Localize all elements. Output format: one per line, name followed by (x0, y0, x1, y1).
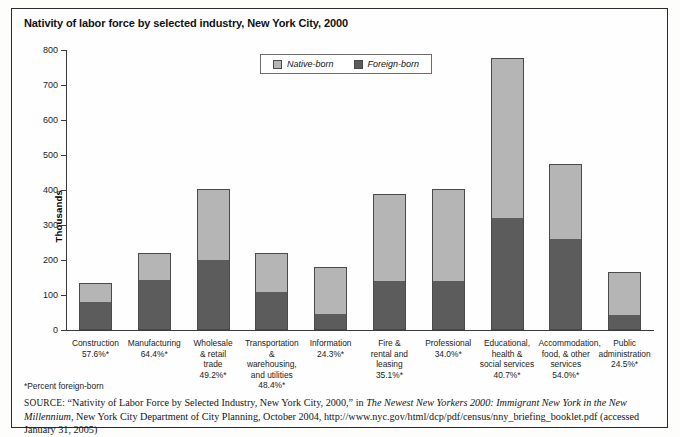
category-percent-foreign-born: 57.6%* (68, 349, 123, 360)
category-name-line: Wholesale (186, 338, 241, 349)
category-percent-foreign-born: 35.1%* (362, 370, 417, 381)
stacked-bar (314, 267, 347, 330)
y-tick-label: 800 (43, 45, 58, 55)
bar-segment-native-born (256, 254, 287, 294)
figure-page: Nativity of labor force by selected indu… (0, 0, 680, 437)
bar-segment-native-born (80, 284, 111, 304)
bar-group (432, 50, 465, 330)
bar-group (549, 50, 582, 330)
category-percent-foreign-born: 40.7%* (480, 370, 535, 381)
category-percent-foreign-born: 24.3%* (303, 349, 358, 360)
category-name-line: food, & other (538, 349, 593, 360)
y-tick-label: 300 (43, 220, 58, 230)
x-axis-category-label: Publicadministration24.5%* (597, 334, 652, 370)
bar-segment-native-born (139, 254, 170, 281)
stacked-bar (197, 189, 230, 330)
y-tick-mark (61, 190, 66, 191)
footnote-percent-foreign-born: *Percent foreign-born (24, 381, 104, 391)
stacked-bar (491, 58, 524, 330)
bar-segment-native-born (315, 268, 346, 316)
source-note: SOURCE: “Nativity of Labor Force by Sele… (24, 396, 652, 436)
category-name-line: & warehousing, (244, 349, 299, 370)
y-axis-line (66, 50, 67, 330)
stacked-bar (79, 283, 112, 330)
bar-group (255, 50, 288, 330)
y-tick-mark (61, 330, 66, 331)
y-tick-mark (61, 295, 66, 296)
category-percent-foreign-born: 48.4%* (244, 380, 299, 391)
bar-segment-foreign-born (256, 292, 287, 329)
source-text-part1: “Nativity of Labor Force by Selected Ind… (65, 397, 366, 408)
y-axis-title: Thousands (53, 190, 64, 242)
source-kicker: SOURCE: (24, 398, 65, 408)
y-tick-mark (61, 50, 66, 51)
bar-segment-foreign-born (315, 314, 346, 329)
bar-segment-native-born (550, 165, 581, 241)
stacked-bar (255, 253, 288, 330)
bar-segment-foreign-born (80, 302, 111, 329)
category-name-line: Educational, (480, 338, 535, 349)
category-name-line: Professional (421, 338, 476, 349)
category-percent-foreign-born: 49.2%* (186, 370, 241, 381)
category-name-line: Manufacturing (127, 338, 182, 349)
y-tick-mark (61, 155, 66, 156)
y-tick-label: 0 (53, 325, 58, 335)
bar-group (314, 50, 347, 330)
category-name-line: Fire & (362, 338, 417, 349)
stacked-bar (608, 272, 641, 330)
bar-segment-foreign-born (492, 218, 523, 329)
x-axis-category-label: Information24.3%* (303, 334, 358, 359)
category-percent-foreign-born: 34.0%* (421, 349, 476, 360)
category-percent-foreign-born: 54.0%* (538, 370, 593, 381)
x-axis-category-label: Transportation& warehousing,and utilitie… (244, 334, 299, 391)
bar-segment-foreign-born (139, 280, 170, 329)
bar-group (491, 50, 524, 330)
y-tick-label: 700 (43, 80, 58, 90)
bar-segment-native-born (433, 190, 464, 283)
x-axis-category-label: Educational,health &social services40.7%… (480, 334, 535, 380)
x-axis-category-label: Construction57.6%* (68, 334, 123, 359)
category-percent-foreign-born: 64.4%* (127, 349, 182, 360)
page-title: Nativity of labor force by selected indu… (24, 17, 348, 29)
bar-segment-foreign-born (198, 260, 229, 329)
stacked-bar (549, 164, 582, 330)
y-tick-mark (61, 120, 66, 121)
stacked-bar (432, 189, 465, 330)
bar-group (197, 50, 230, 330)
bar-segment-native-born (198, 190, 229, 262)
category-name-line: health & (480, 349, 535, 360)
category-name-line: trade (186, 359, 241, 370)
category-name-line: Transportation (244, 338, 299, 349)
x-axis-line (66, 330, 654, 331)
y-tick-label: 400 (43, 185, 58, 195)
category-name-line: Information (303, 338, 358, 349)
source-text-part2: New York City Department of City Plannin… (24, 411, 639, 435)
stacked-bar (373, 194, 406, 330)
category-name-line: Public (597, 338, 652, 349)
bar-group (138, 50, 171, 330)
y-tick-label: 600 (43, 115, 58, 125)
x-axis-category-label: Accommodation,food, & otherservices54.0%… (538, 334, 593, 380)
y-tick-label: 500 (43, 150, 58, 160)
category-name-line: services (538, 359, 593, 370)
y-tick-label: 100 (43, 290, 58, 300)
category-name-line: & retail (186, 349, 241, 360)
bar-segment-foreign-born (374, 281, 405, 329)
bar-segment-native-born (374, 195, 405, 283)
category-name-line: social services (480, 359, 535, 370)
x-axis-category-label: Manufacturing64.4%* (127, 334, 182, 359)
category-name-line: leasing (362, 359, 417, 370)
bar-segment-foreign-born (550, 239, 581, 329)
chart-container: Native-born Foreign-born Thousands 01002… (24, 46, 656, 346)
x-axis-category-label: Wholesale& retailtrade49.2%* (186, 334, 241, 380)
plot-area: Thousands 0100200300400500600700800 Cons… (66, 50, 654, 330)
x-axis-category-label: Fire &rental andleasing35.1%* (362, 334, 417, 380)
bar-group (79, 50, 112, 330)
y-tick-label: 200 (43, 255, 58, 265)
category-name-line: Accommodation, (538, 338, 593, 349)
category-name-line: rental and (362, 349, 417, 360)
category-percent-foreign-born: 24.5%* (597, 359, 652, 370)
y-tick-mark (61, 260, 66, 261)
bar-segment-foreign-born (433, 281, 464, 329)
bar-segment-foreign-born (609, 315, 640, 329)
